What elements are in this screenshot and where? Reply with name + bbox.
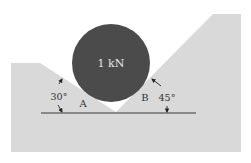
- angle-label-left: 30°: [51, 91, 68, 102]
- cylinder-weight-label: 1 kN: [98, 57, 125, 70]
- statics-diagram: 1 kN 30° A B 45°: [0, 0, 251, 163]
- angle-label-right: 45°: [159, 92, 176, 103]
- contact-label-a: A: [78, 98, 87, 109]
- contact-label-b: B: [141, 92, 148, 103]
